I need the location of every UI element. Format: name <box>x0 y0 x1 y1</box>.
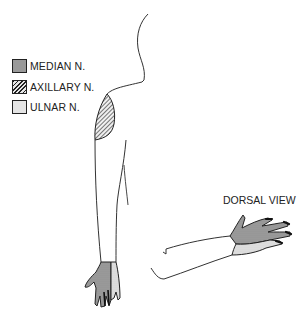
hand-median-region <box>85 262 111 307</box>
elbow-line <box>124 165 128 205</box>
legend: MEDIAN N. AXILLARY N. ULNAR N. <box>12 58 94 120</box>
arm-inner-edge <box>116 140 126 262</box>
legend-item-median: MEDIAN N. <box>12 58 94 74</box>
legend-item-ulnar: ULNAR N. <box>12 99 94 115</box>
axillary-swatch-icon <box>12 80 27 94</box>
dorsal-view-label: DORSAL VIEW <box>223 194 296 206</box>
ulnar-swatch-icon <box>12 100 27 114</box>
dorsal-forearm-lower <box>151 255 232 279</box>
median-swatch-icon <box>12 59 27 73</box>
hand-ulnar-region <box>111 262 120 300</box>
legend-label: ULNAR N. <box>30 101 80 113</box>
legend-label: MEDIAN N. <box>30 60 85 72</box>
arm-outer-edge <box>95 140 101 262</box>
dorsal-forearm-upper <box>163 236 230 254</box>
legend-label: AXILLARY N. <box>30 81 94 93</box>
neck-shoulder-outline <box>107 14 148 94</box>
arm-nerve-diagram <box>0 0 308 318</box>
dorsal-hand-median <box>230 215 290 244</box>
axillary-region <box>95 94 115 140</box>
legend-item-axillary: AXILLARY N. <box>12 79 94 95</box>
